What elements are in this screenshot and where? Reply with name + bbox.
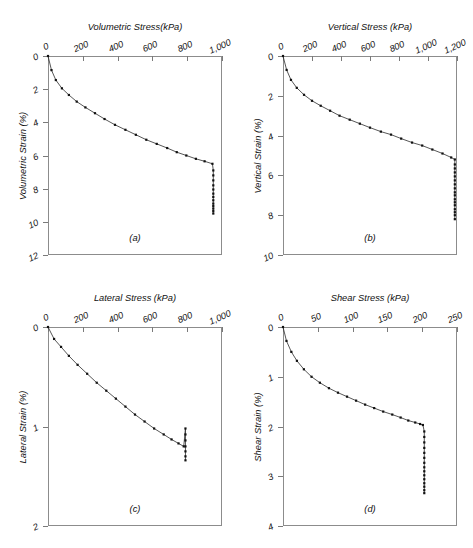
data-point [423, 441, 425, 443]
data-point [414, 421, 416, 423]
data-point [303, 368, 305, 370]
data-point [382, 410, 384, 412]
data-point [400, 416, 402, 418]
data-curve [283, 327, 424, 493]
data-point [346, 396, 348, 398]
data-point [373, 407, 375, 409]
data-point [290, 351, 292, 353]
data-point [423, 436, 425, 438]
data-point [423, 474, 425, 476]
data-point [423, 447, 425, 449]
data-point [296, 360, 298, 362]
data-point [423, 462, 425, 464]
chart-panel-d: Shear Stress (kPa)05010015020025001234Sh… [0, 0, 473, 548]
data-point [423, 482, 425, 484]
data-point [423, 457, 425, 459]
data-point [423, 478, 425, 480]
data-point [285, 340, 287, 342]
data-point [423, 452, 425, 454]
data-point [282, 326, 284, 328]
data-point [355, 400, 357, 402]
data-point [423, 430, 425, 432]
data-point [319, 382, 321, 384]
data-point [391, 413, 393, 415]
data-point [310, 376, 312, 378]
data-point [364, 404, 366, 406]
data-point [337, 392, 339, 394]
data-point [423, 489, 425, 491]
data-point [423, 486, 425, 488]
data-point [422, 424, 424, 426]
data-point [328, 387, 330, 389]
series-layer [0, 0, 473, 548]
data-point [419, 423, 421, 425]
data-point [423, 492, 425, 494]
stress-strain-figure: Volumetric Stress(kPa)02004006008001,000… [0, 0, 473, 548]
data-point [407, 419, 409, 421]
data-point [423, 466, 425, 468]
data-point [423, 470, 425, 472]
